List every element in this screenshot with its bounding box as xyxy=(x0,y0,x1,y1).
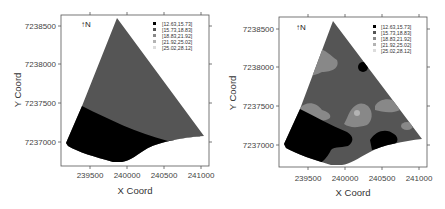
x-tick-label: 239500 xyxy=(295,174,322,183)
x-axis-title: X Coord xyxy=(336,187,371,198)
north-arrow-icon: ↑N xyxy=(81,20,91,29)
y-tick-label: 7238500 xyxy=(243,25,275,34)
map-panel-left: 7238500 7238000 7237500 7237000 239500 2… xyxy=(0,0,222,209)
y-tick-label: 7237000 xyxy=(243,141,275,150)
y-tick-label: 7237500 xyxy=(243,102,275,111)
x-axis-title: X Coord xyxy=(118,185,153,196)
y-tick-label: 7237000 xyxy=(25,138,57,147)
y-tick-label: 7238500 xyxy=(25,22,57,31)
y-axis-title: Y Coord xyxy=(12,73,23,108)
map-panel-right: 7238500 7238000 7237500 7237000 239500 2… xyxy=(222,0,444,209)
map-plot-right: 7238500 7238000 7237500 7237000 239500 2… xyxy=(222,0,445,209)
x-tick-label: 240500 xyxy=(369,174,396,183)
x-tick-label: 241000 xyxy=(188,171,215,180)
y-axis-title: Y Coord xyxy=(227,76,238,111)
x-tick-label: 241000 xyxy=(406,174,433,183)
x-tick-label: 239500 xyxy=(77,171,104,180)
svg-text:[25.02,28.12]: [25.02,28.12] xyxy=(381,48,412,54)
x-tick-label: 240000 xyxy=(332,174,359,183)
x-tick-label: 240500 xyxy=(151,171,178,180)
x-tick-label: 240000 xyxy=(114,171,141,180)
svg-text:[25.02,28.12]: [25.02,28.12] xyxy=(162,45,193,51)
map-plot-left: 7238500 7238000 7237500 7237000 239500 2… xyxy=(0,0,222,209)
y-tick-label: 7237500 xyxy=(25,99,57,108)
y-tick-label: 7238000 xyxy=(243,63,275,72)
north-arrow-icon: ↑N xyxy=(296,23,306,32)
y-tick-label: 7238000 xyxy=(25,60,57,69)
